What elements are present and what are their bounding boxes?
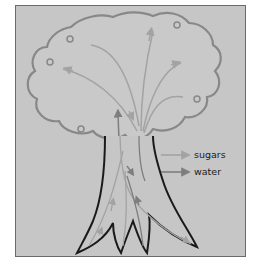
legend-sugars-label: sugars <box>194 149 226 160</box>
legend-water-label: water <box>194 166 221 177</box>
tree-diagram <box>16 6 246 257</box>
diagram-frame: sugars water <box>15 5 246 257</box>
